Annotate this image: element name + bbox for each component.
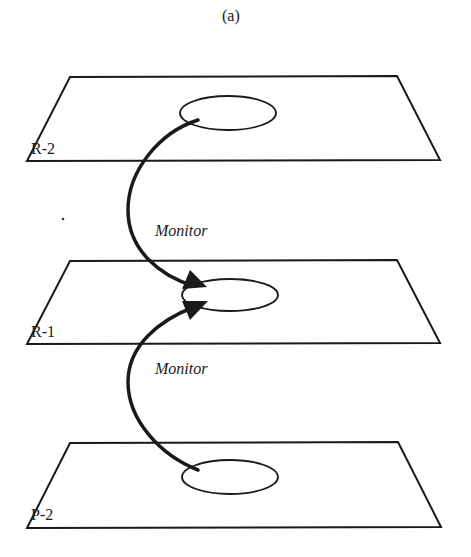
plane-r1	[27, 260, 440, 344]
diagram-canvas	[0, 0, 471, 557]
monitor-label-top: Monitor	[155, 222, 207, 240]
plane-r2	[27, 76, 440, 161]
stray-dot	[62, 218, 65, 221]
monitor-label-bottom: Monitor	[155, 360, 207, 378]
region-ellipse-r2	[180, 96, 276, 130]
monitor-arrow-top	[128, 120, 207, 289]
plane-label-r2: R-2	[31, 140, 55, 158]
figure-caption: (a)	[222, 7, 240, 25]
region-ellipse-p2	[182, 460, 278, 494]
arrowhead-icon	[182, 270, 207, 289]
plane-label-r1: R-1	[31, 323, 55, 341]
plane-p2	[27, 442, 441, 528]
plane-label-p2: P-2	[31, 506, 53, 524]
monitor-arrow-bottom	[128, 301, 208, 470]
